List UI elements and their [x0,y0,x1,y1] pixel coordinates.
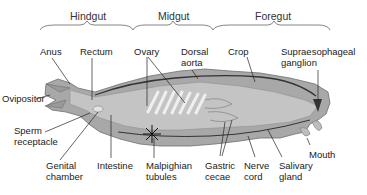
label-malpighian-tubules-line1: Malpighian [146,161,192,172]
label-dorsal-aorta-line2: aorta [181,58,203,69]
label-rectum: Rectum [80,47,113,58]
label-supraesophageal-line2: ganglion [281,58,317,69]
label-genital-chamber-line2: chamber [46,172,83,183]
label-nerve-cord-line2: cord [244,172,262,183]
label-intestine: Intestine [97,161,133,172]
insect-body [45,69,330,146]
label-malpighian-tubules-line2: tubules [146,172,177,183]
label-sperm-receptacle-line2: receptacle [14,137,58,148]
label-salivary-gland-line1: Salivary [279,161,313,172]
label-ovipositor: Ovipositor [2,94,45,105]
label-crop: Crop [228,47,249,58]
label-genital-chamber-line1: Genital [46,161,76,172]
label-sperm-receptacle-line1: Sperm [14,126,42,137]
label-dorsal-aorta-line1: Dorsal [181,47,208,58]
region-braces [40,21,330,30]
label-gastric-cecae-line2: cecae [205,172,230,183]
label-salivary-gland-line2: gland [279,172,302,183]
label-ovary: Ovary [134,47,159,58]
label-gastric-cecae-line1: Gastric [205,161,235,172]
label-supraesophageal-line1: Supraesophageal [281,47,355,58]
label-nerve-cord-line1: Nerve [244,161,269,172]
label-mouth: Mouth [309,150,335,161]
label-anus: Anus [40,47,62,58]
